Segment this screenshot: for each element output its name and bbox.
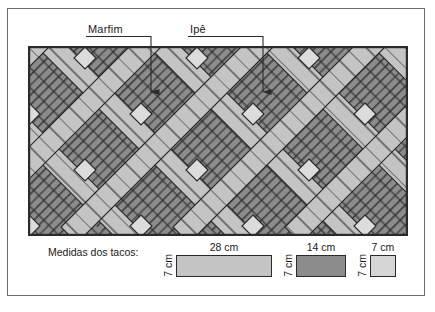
legend-swatch-taco-28 — [176, 255, 272, 277]
parquet-floor-plan — [28, 46, 408, 236]
legend-length-label-28: 28 cm — [176, 241, 272, 253]
legend-length-label-7: 7 cm — [370, 241, 396, 253]
legend-swatch-taco-7 — [370, 255, 396, 277]
figure-root: Marfim Ipê Medidas dos tacos: 28 cm 7 cm… — [0, 0, 435, 312]
legend: Medidas dos tacos: 28 cm 7 cm 14 cm 7 cm… — [28, 240, 408, 290]
legend-length-label-14: 14 cm — [296, 241, 346, 253]
parquet-pattern-svg — [29, 47, 407, 235]
legend-width-label-14: 7 cm — [283, 254, 294, 277]
legend-width-label-28: 7 cm — [163, 254, 174, 277]
legend-swatch-taco-14 — [296, 255, 346, 277]
callout-label-ipe: Ipê — [190, 23, 206, 35]
callout-label-marfim: Marfim — [88, 23, 123, 35]
legend-width-label-7: 7 cm — [357, 254, 368, 277]
legend-title: Medidas dos tacos: — [48, 246, 138, 258]
parquet-tiling — [29, 47, 407, 235]
